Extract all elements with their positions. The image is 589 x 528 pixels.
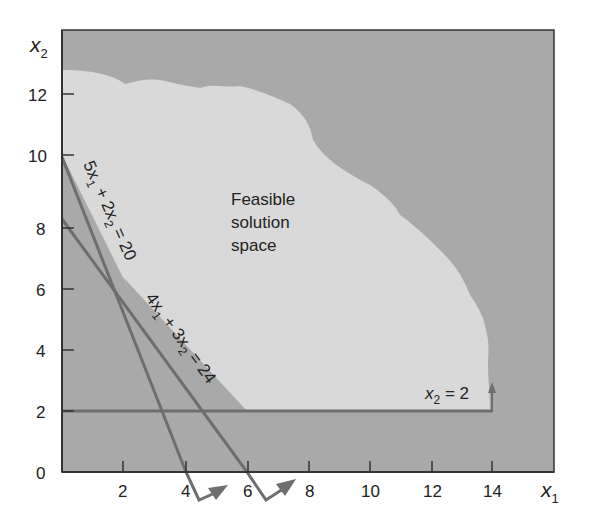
feasible-region-label: Feasible [231, 190, 295, 209]
x-tick-label: 10 [361, 482, 380, 501]
arrowhead-icon [276, 479, 296, 496]
x-tick-label: 8 [305, 482, 314, 501]
y-tick-label: 4 [36, 342, 45, 361]
x-tick-label: 4 [181, 482, 190, 501]
arrowhead-icon [208, 485, 228, 500]
y-tick-label: 6 [36, 281, 45, 300]
y-tick-label: 0 [36, 464, 45, 483]
x-tick-label: 12 [423, 482, 442, 501]
y-tick-label: 12 [28, 86, 47, 105]
x-axis-title: x1 [540, 478, 559, 506]
feasible-region-label: solution [231, 213, 290, 232]
y-tick-label: 10 [28, 147, 47, 166]
x-tick-label: 14 [483, 482, 502, 501]
x-tick-label: 6 [243, 482, 252, 501]
linear-programming-chart: 0 2 4 6 8 10 12 2 4 6 8 10 12 14 x2 x1 F… [0, 0, 589, 528]
feasible-region-label: space [231, 236, 276, 255]
y-tick-label: 2 [36, 403, 45, 422]
x-tick-label: 2 [118, 482, 127, 501]
y-axis-title: x2 [29, 33, 48, 61]
y-tick-label: 8 [36, 220, 45, 239]
